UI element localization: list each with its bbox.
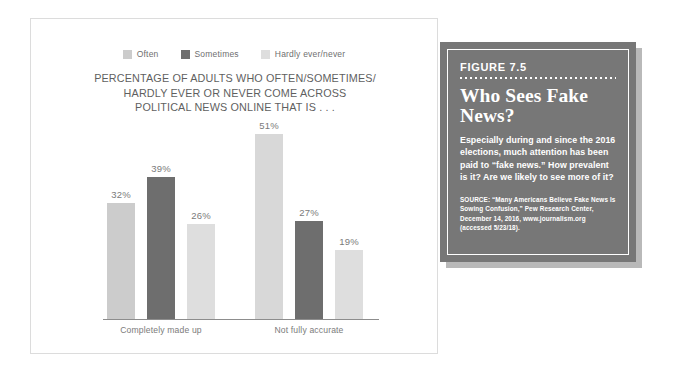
figure-source-citation: SOURCE: “Many Americans Believe Fake New… xyxy=(460,195,616,233)
bar-rect xyxy=(255,134,283,319)
bar-value-label: 51% xyxy=(259,120,279,131)
legend-swatch-icon xyxy=(123,50,132,59)
bar-rect xyxy=(335,250,363,319)
bar-hardly-ever-never: 26% xyxy=(187,210,215,319)
legend-item-often: Often xyxy=(123,49,159,59)
chart-legend: OftenSometimesHardly ever/never xyxy=(31,49,437,59)
figure-page: OftenSometimesHardly ever/never PERCENTA… xyxy=(0,0,673,375)
bar-rect xyxy=(295,221,323,319)
bar-value-label: 32% xyxy=(111,189,131,200)
bar-rect xyxy=(107,203,135,319)
chart-title-line: HARDLY EVER OR NEVER COME ACROSS xyxy=(49,86,421,101)
bar-value-label: 19% xyxy=(339,236,359,247)
legend-item-hardly-ever-never: Hardly ever/never xyxy=(261,49,345,59)
legend-swatch-icon xyxy=(181,50,190,59)
figure-inner-border: FIGURE 7.5 Who Sees Fake News? Especiall… xyxy=(447,49,629,255)
bar-value-label: 39% xyxy=(151,163,171,174)
chart-title-line: PERCENTAGE OF ADULTS WHO OFTEN/SOMETIMES… xyxy=(49,71,421,86)
figure-dotted-divider xyxy=(460,77,616,79)
legend-swatch-icon xyxy=(261,50,270,59)
chart-title-line: POLITICAL NEWS ONLINE THAT IS . . . xyxy=(49,100,421,115)
bar-value-label: 26% xyxy=(191,210,211,221)
figure-body-text: Especially during and since the 2016 ele… xyxy=(460,134,616,184)
bar-value-label: 27% xyxy=(299,207,319,218)
legend-item-sometimes: Sometimes xyxy=(181,49,239,59)
bar-hardly-ever-never: 19% xyxy=(335,236,363,319)
legend-item-label: Often xyxy=(137,49,159,59)
figure-title: Who Sees Fake News? xyxy=(460,86,616,126)
chart-title: PERCENTAGE OF ADULTS WHO OFTEN/SOMETIMES… xyxy=(49,71,421,115)
figure-callout-box: FIGURE 7.5 Who Sees Fake News? Especiall… xyxy=(440,42,636,262)
x-axis-category-label: Not fully accurate xyxy=(255,325,363,335)
bar-sometimes: 39% xyxy=(147,163,175,319)
figure-number: FIGURE 7.5 xyxy=(460,61,616,73)
bar-sometimes: 27% xyxy=(295,207,323,319)
bar-rect xyxy=(147,177,175,319)
legend-item-label: Hardly ever/never xyxy=(275,49,345,59)
bar-often: 51% xyxy=(255,120,283,319)
bar-plot-area: 32%39%26%51%27%19% xyxy=(103,119,379,319)
x-axis-category-label: Completely made up xyxy=(107,325,215,335)
bar-rect xyxy=(187,224,215,319)
bar-often: 32% xyxy=(107,189,135,319)
x-axis-line xyxy=(103,319,379,320)
chart-panel: OftenSometimesHardly ever/never PERCENTA… xyxy=(30,18,438,354)
legend-item-label: Sometimes xyxy=(195,49,239,59)
